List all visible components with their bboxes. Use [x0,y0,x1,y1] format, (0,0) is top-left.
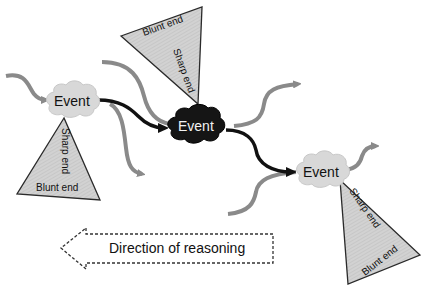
event-right-label: Event [303,164,339,180]
event-left: Event [47,81,100,118]
event-right: Event [297,151,350,188]
event-left-label: Event [54,93,90,109]
arrow-into-right-event [228,172,296,214]
triangle-left-sharp-label: Sharp end [60,128,71,174]
event-chain-diagram: Sharp end Blunt end Blunt end Sharp end … [0,0,428,292]
main-arrow-center-to-right [226,130,292,172]
direction-of-reasoning-arrow: Direction of reasoning [61,228,273,269]
triangle-left: Sharp end Blunt end [17,118,100,200]
event-center-label: Event [178,118,214,134]
triangle-top: Blunt end Sharp end [121,7,202,104]
triangle-left-blunt-label: Blunt end [36,182,78,193]
direction-label: Direction of reasoning [109,240,245,256]
arrow-center-up [234,84,298,126]
incoming-arrow-left [6,75,46,100]
triangle-right: Sharp end Blunt end [340,180,420,284]
arrow-right-up [346,146,376,170]
event-center: Event [168,104,225,143]
